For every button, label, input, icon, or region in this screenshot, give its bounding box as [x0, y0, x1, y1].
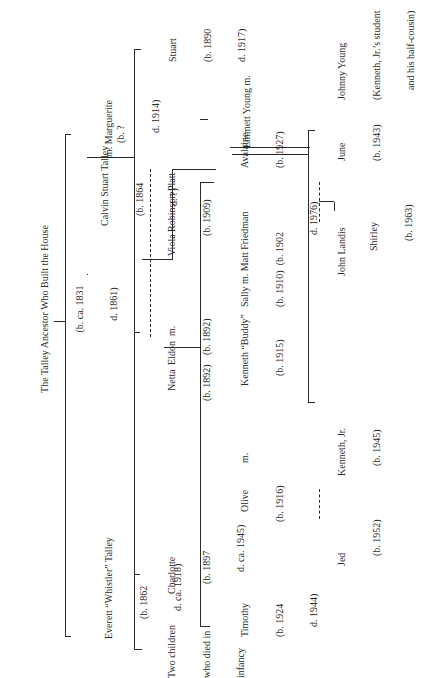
johnny-node: Johnny Young (Kenneth, Jr.’s student and… — [313, 11, 421, 100]
netta-name: Netta — [166, 364, 178, 401]
stuart-node: Stuart (b. 1890 d. 1917) — [144, 29, 271, 62]
jed-node: Jed (b. 1952) — [313, 519, 405, 566]
matt-born: (b. 1902 — [274, 232, 285, 265]
jed-born: (b. 1952) — [371, 519, 383, 566]
johnny-note2: and his half-cousin) — [405, 11, 417, 100]
avalaine-name: Avalaine — [239, 131, 251, 168]
timothy-node: Timothy (b. 1924 d. 1944) — [216, 594, 343, 637]
kenneth-name: Kenneth “Buddy” — [239, 314, 251, 386]
ancestor-node: The Talley Ancestor Who Built the House … — [16, 194, 143, 424]
timothy-died: d. 1944) — [308, 594, 320, 637]
marguerite-died: d. 1914) — [150, 100, 162, 143]
stuart-drop — [134, 49, 141, 50]
june-name: June — [336, 124, 348, 161]
marguerite-born: (b. ? — [115, 100, 127, 143]
everett-name: Everett “Whistler” Talley — [103, 537, 115, 639]
stuart-born: (b. 1890 — [202, 29, 214, 62]
avalaine-born: (b. 1927) — [274, 131, 286, 168]
charlotte-died: d. ca. 1945) — [235, 525, 247, 594]
ancestor-died: d. 1861) — [108, 194, 120, 424]
timothy-name: Timothy — [239, 594, 251, 637]
marguerite-dates: (b. ? d. 1914) — [92, 100, 184, 143]
viola-name: Viola Robinson Platt — [166, 173, 178, 256]
timothy-born: (b. 1924 — [274, 594, 286, 637]
sally-name: Sally m. Matt Friedman — [239, 202, 251, 307]
kenneth-jr-jed-liaison — [319, 489, 320, 519]
june-node: June (b. 1943) — [313, 124, 405, 161]
june-born: (b. 1943) — [371, 124, 383, 161]
kenneth-gen3-tick — [200, 119, 208, 120]
kenneth-olive-marriage: m. — [216, 453, 274, 463]
stuart-name: Stuart — [167, 29, 179, 62]
charlotte-node: Charlotte (b. 1897 d. ca. 1945) — [143, 525, 270, 594]
viola-born: (b. 1909) — [201, 173, 213, 256]
kenneth-born: (b. 1915) — [274, 314, 286, 386]
calvin-drop — [65, 134, 71, 135]
charlotte-name: Charlotte — [166, 525, 178, 594]
olive-born: (b. 1916) — [274, 485, 286, 522]
eldon-name: Eldon — [166, 341, 177, 365]
avalaine-node: Avalaine (b. 1927) — [216, 131, 308, 168]
olive-name: Olive — [239, 485, 251, 522]
kenneth-jr-drop — [308, 402, 315, 403]
kenneth-jr-name: Kenneth, Jr. — [336, 428, 348, 476]
sally-born: (b. 1910) — [274, 270, 285, 307]
netta-born: (b. 1892) — [201, 364, 213, 401]
kenneth-jr-node: Kenneth, Jr. (b. 1945) — [313, 428, 405, 476]
charlotte-born: (b. 1897 — [201, 525, 213, 594]
eldon-born: (b. 1892) — [201, 318, 213, 365]
johnny-note1: (Kenneth, Jr.’s student — [371, 11, 383, 100]
kenneth-jr-born: (b. 1945) — [371, 428, 383, 476]
stuart-died: d. 1917) — [236, 29, 248, 62]
shirley-born: (b. 1963) — [403, 204, 415, 251]
marguerite-prefix: m. — [103, 147, 114, 157]
avalaine-link-d — [150, 259, 151, 260]
infants-drop — [134, 649, 142, 650]
ancestor-name: The Talley Ancestor Who Built the House — [39, 194, 51, 424]
marriage-label: m. — [239, 453, 251, 463]
johnny-name: Johnny Young — [336, 11, 348, 100]
eldon-marriage: m. — [166, 326, 177, 336]
everett-drop — [65, 636, 71, 637]
avalaine-link-a — [142, 259, 172, 260]
infants-line2: who died in — [201, 625, 213, 678]
shirley-name: Shirley — [368, 204, 380, 251]
calvin-name: Calvin Stuart Talley — [99, 146, 111, 226]
ancestor-born: (b. ca. 1831 — [74, 194, 86, 424]
shirley-node: Shirley (b. 1963) — [345, 204, 421, 251]
jed-name: Jed — [336, 519, 348, 566]
olive-node: Olive (b. 1916) — [216, 485, 308, 522]
infants-line1: Two children — [166, 625, 178, 678]
kenneth-node: Kenneth “Buddy” (b. 1915) — [216, 314, 308, 386]
